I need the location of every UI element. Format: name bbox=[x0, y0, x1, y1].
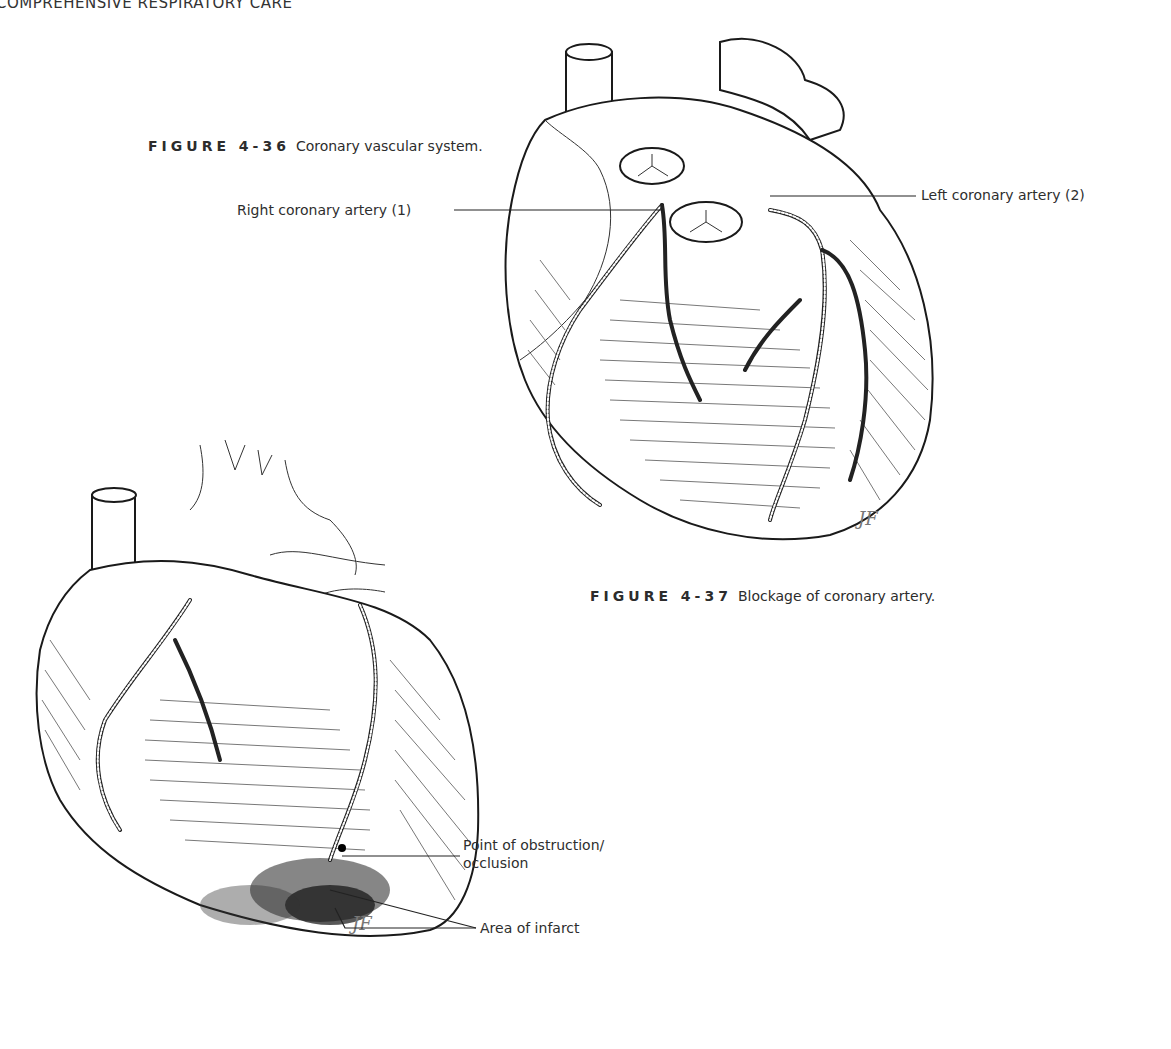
occlusion-point bbox=[338, 844, 346, 852]
obstruction-label-line-2: occlusion bbox=[463, 854, 604, 872]
obstruction-label: Point of obstruction/ occlusion bbox=[463, 836, 604, 872]
figure-37-signature: JF bbox=[348, 913, 373, 934]
infarct-label: Area of infarct bbox=[480, 919, 580, 937]
obstruction-label-line-1: Point of obstruction/ bbox=[463, 836, 604, 854]
heart-illustration-blockage: JF bbox=[0, 0, 1171, 1049]
